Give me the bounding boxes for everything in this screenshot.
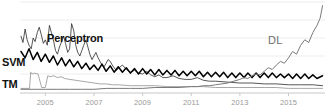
gridlines <box>20 2 325 74</box>
x-tick-label-2015: 2015 <box>280 98 297 107</box>
x-tick-label-2005: 2005 <box>37 98 54 107</box>
chart-plot-area <box>0 0 327 111</box>
x-tick-label-2007: 2007 <box>85 98 102 107</box>
x-tick-label-2009: 2009 <box>134 98 151 107</box>
x-tick-label-2013: 2013 <box>231 98 248 107</box>
x-tick-label-2011: 2011 <box>183 98 200 107</box>
trends-chart: Perceptron SVM TM DL 2005200720092011201… <box>0 0 327 111</box>
series-lines <box>21 6 323 90</box>
